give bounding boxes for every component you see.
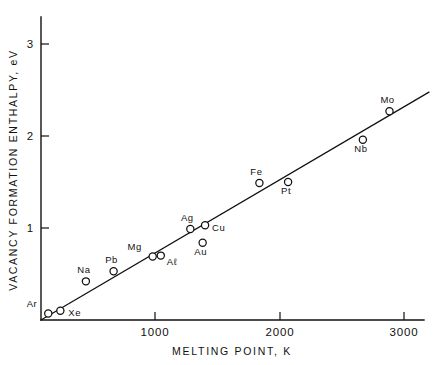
trend-line [41,92,429,320]
data-point-label-pt: Pt [281,185,291,196]
y-axis-ticks [41,44,49,228]
data-point-aℓ [157,252,164,259]
data-point-label-nb: Nb [354,143,367,154]
data-point-cu [201,222,208,229]
data-point-label-au: Au [194,246,207,257]
data-point-ar [45,310,52,317]
data-point-label-na: Na [77,264,90,275]
x-axis-ticks [155,312,404,320]
data-point-xe [57,307,64,314]
x-tick-label-1000: 1000 [140,326,169,338]
data-point-label-mg: Mg [127,241,141,252]
data-point-label-ar: Ar [27,298,38,309]
data-point-label-fe: Fe [250,166,262,177]
data-point-ag [187,225,194,232]
data-point-label-ag: Ag [181,212,194,223]
x-axis: 1000 2000 3000 MELTING POINT, K [41,312,424,357]
y-tick-label-3: 3 [27,38,34,50]
data-point-pb [110,268,117,275]
data-point-mg [149,253,156,260]
data-point-na [82,278,89,285]
x-tick-label-2000: 2000 [265,326,294,338]
data-point-label-mo: Mo [380,94,394,105]
data-point-label-xe: Xe [68,307,81,318]
data-point-label-aℓ: Aℓ [167,256,178,267]
y-axis-title: VACANCY FORMATION ENTHALPY, eV [7,49,19,291]
y-tick-label-1: 1 [27,222,34,234]
data-point-mo [386,108,393,115]
plot-canvas: 3 2 1 VACANCY FORMATION ENTHALPY, eV 100… [0,0,437,365]
data-point-label-cu: Cu [212,222,225,233]
y-tick-label-2: 2 [27,130,34,142]
x-tick-label-3000: 3000 [389,326,418,338]
data-point-fe [256,179,263,186]
y-axis: 3 2 1 VACANCY FORMATION ENTHALPY, eV [7,17,49,320]
trend-line-segment [41,92,429,320]
x-axis-title: MELTING POINT, K [172,345,292,357]
vacancy-formation-enthalpy-chart: 3 2 1 VACANCY FORMATION ENTHALPY, eV 100… [0,0,437,365]
data-points: ArXeNaPbMgAℓAgCuAuFePtNbMo [27,94,395,318]
data-point-label-pb: Pb [105,254,118,265]
